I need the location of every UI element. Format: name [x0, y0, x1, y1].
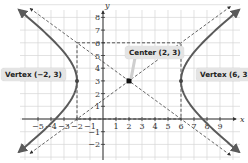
center-leader	[131, 58, 135, 79]
x-tick-label: 7	[191, 122, 196, 131]
y-tick-label: 7	[95, 26, 100, 35]
y-tick-label: 4	[95, 64, 100, 73]
y-tick-label: −2	[88, 140, 100, 149]
vertex-point	[179, 79, 183, 83]
y-tick-label: 5	[95, 52, 100, 61]
x-tick-label: 1	[113, 122, 118, 131]
y-tick-label: 2	[95, 90, 100, 99]
y-tick-label: 3	[95, 77, 100, 86]
x-axis-label: x	[240, 115, 245, 124]
center-point	[127, 78, 132, 83]
y-tick-label: 8	[95, 13, 100, 22]
y-tick-label: −1	[88, 128, 100, 137]
x-tick-label: −5	[32, 122, 44, 131]
x-tick-label: −2	[71, 122, 83, 131]
y-tick-label: 6	[95, 39, 100, 48]
center-callout: Center (2, 3)	[125, 46, 184, 59]
x-tick-label: −3	[58, 122, 70, 131]
x-tick-label: 4	[152, 122, 157, 131]
x-tick-label: 5	[165, 122, 170, 131]
callout-leaders	[131, 58, 135, 79]
hyperbola-plot: xy −5−4−3−2−1123456789−2−112345678	[0, 0, 248, 163]
vertex-point	[75, 79, 79, 83]
x-tick-label: 3	[139, 122, 144, 131]
y-axis-label: y	[104, 1, 110, 10]
y-tick-label: 1	[95, 102, 100, 111]
x-tick-label: 9	[217, 122, 222, 131]
x-tick-label: 6	[178, 122, 183, 131]
vertex-left-callout: Vertex (−2, 3)	[1, 68, 66, 81]
x-tick-label: 2	[126, 122, 131, 131]
vertex-right-callout: Vertex (6, 3)	[196, 68, 248, 81]
